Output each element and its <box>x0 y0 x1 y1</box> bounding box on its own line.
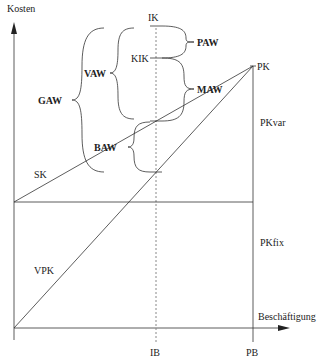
ik-label: IK <box>148 12 159 23</box>
maw-label: MAW <box>197 84 223 95</box>
maw-brace: MAW <box>162 58 223 121</box>
x-axis-arrow-icon <box>278 325 290 331</box>
cost-diagram: Kosten Beschäftigung IB PB SK VPK PK PKv… <box>0 0 325 361</box>
sk-label: SK <box>34 169 48 180</box>
kik-label: KIK <box>131 53 150 64</box>
ib-tick-label: IB <box>150 347 160 358</box>
pb-tick-label: PB <box>246 347 259 358</box>
y-axis-arrow-icon <box>11 22 17 34</box>
y-axis-label: Kosten <box>7 3 35 14</box>
vaw-label: VAW <box>84 68 106 79</box>
vaw-brace: VAW <box>84 28 134 119</box>
x-axis: Beschäftigung <box>14 311 316 331</box>
paw-brace: PAW <box>162 26 218 58</box>
pk-label: PK <box>257 61 271 72</box>
pkfix-label: PKfix <box>260 237 284 248</box>
vpk-label: VPK <box>34 265 55 276</box>
gaw-label: GAW <box>38 95 62 106</box>
pkvar-label: PKvar <box>260 117 286 128</box>
x-axis-label: Beschäftigung <box>258 311 316 322</box>
paw-label: PAW <box>197 37 218 48</box>
y-axis: Kosten <box>7 3 35 340</box>
baw-label: BAW <box>94 142 117 153</box>
